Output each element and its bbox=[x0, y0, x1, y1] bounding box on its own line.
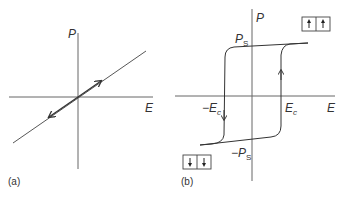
neg-ec-label: −Ec bbox=[202, 101, 221, 117]
hysteresis-loop-upper bbox=[200, 43, 308, 145]
figure: P E (a) P E PS −PS Ec −Ec bbox=[0, 0, 343, 197]
domain-up-box bbox=[302, 17, 330, 31]
panel-b: P E PS −PS Ec −Ec bbox=[175, 9, 336, 187]
panel-a-caption: (a) bbox=[8, 176, 20, 187]
hysteresis-loop-lower bbox=[200, 43, 308, 145]
arrow-up-icon bbox=[307, 19, 311, 28]
panel-a-x-label: E bbox=[145, 101, 154, 115]
panel-a-arrow-down bbox=[49, 97, 78, 117]
panel-a-arrow-up bbox=[78, 81, 101, 97]
panel-b-x-label: E bbox=[327, 101, 336, 115]
ec-label: Ec bbox=[285, 101, 297, 117]
arrow-down-icon bbox=[188, 158, 192, 167]
neg-ps-label: −PS bbox=[231, 146, 251, 162]
panel-b-y-label: P bbox=[256, 11, 264, 25]
ps-label: PS bbox=[235, 32, 248, 48]
panel-a: P E (a) bbox=[8, 27, 154, 187]
arrow-up-icon bbox=[321, 19, 325, 28]
domain-down-box bbox=[183, 155, 211, 169]
panel-b-caption: (b) bbox=[181, 176, 193, 187]
panel-a-y-label: P bbox=[68, 27, 76, 41]
arrow-down-icon bbox=[202, 158, 206, 167]
